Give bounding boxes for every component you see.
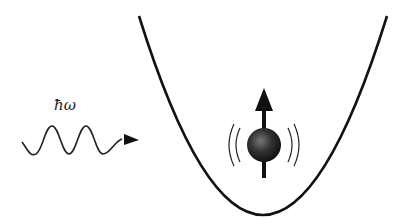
photon-wave-icon bbox=[22, 126, 139, 155]
diagram-canvas: ħω bbox=[0, 0, 408, 224]
spin-arrow-head-icon bbox=[255, 88, 273, 111]
spin-particle-ball bbox=[247, 128, 281, 162]
diagram-svg bbox=[0, 0, 408, 224]
